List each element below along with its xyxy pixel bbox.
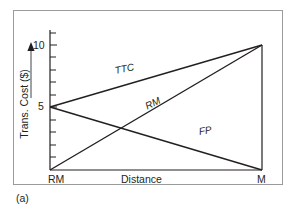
y-axis-title: Trans. Cost ($) — [16, 44, 32, 164]
x-axis-tick-label-rm: RM — [48, 174, 64, 185]
x-axis-title: Distance — [121, 174, 162, 185]
y-axis-title-wrapper: Trans. Cost ($) — [16, 44, 32, 164]
y-axis-tick-label-5: 5 — [38, 101, 44, 112]
y-axis-ticks — [50, 33, 57, 157]
figure-panel: 10 5 Trans. Cost ($) RM Distance M TTC R… — [0, 0, 296, 219]
series-line-fp — [50, 107, 262, 170]
x-axis-tick-label-m: M — [257, 174, 266, 185]
y-axis-tick-label-10: 10 — [33, 40, 45, 51]
figure-caption: (a) — [16, 193, 29, 204]
